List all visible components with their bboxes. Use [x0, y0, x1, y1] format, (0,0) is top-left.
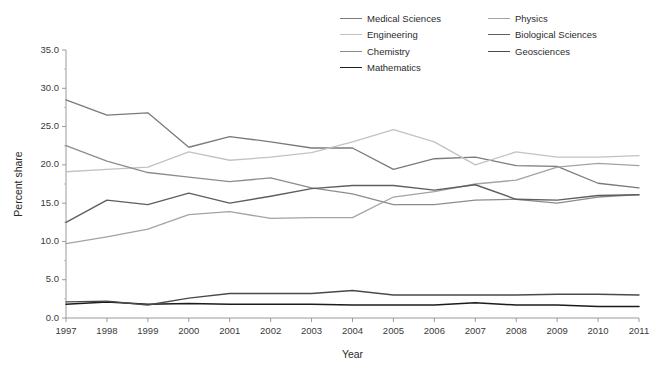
x-tick-label: 2010 [588, 325, 609, 336]
legend-swatch-icon [488, 51, 510, 52]
y-tick-label: 35.0 [41, 44, 60, 55]
legend-swatch-icon [488, 34, 510, 35]
x-tick-label: 2005 [383, 325, 404, 336]
legend-item-engineering[interactable]: Engineering [340, 30, 488, 40]
y-axis-title: Percent share [12, 151, 24, 217]
legend-label: Engineering [367, 30, 418, 40]
x-axis: 1997199819992000200120022003200420052006… [55, 318, 649, 336]
x-tick-label: 2000 [178, 325, 199, 336]
series-line-chemistry [66, 146, 639, 205]
x-tick-label: 2007 [465, 325, 486, 336]
legend-item-medical-sciences[interactable]: Medical Sciences [340, 14, 488, 24]
x-tick-label: 2008 [506, 325, 527, 336]
series-line-biological-sciences [66, 185, 639, 223]
x-tick-label: 2004 [342, 325, 363, 336]
x-tick-label: 1998 [96, 325, 117, 336]
y-tick-label: 0.0 [46, 312, 59, 323]
x-tick-label: 2002 [260, 325, 281, 336]
x-tick-label: 1999 [137, 325, 158, 336]
legend-label: Physics [515, 14, 548, 24]
legend-item-chemistry[interactable]: Chemistry [340, 47, 488, 57]
legend-item-geosciences[interactable]: Geosciences [488, 47, 640, 57]
legend-item-physics[interactable]: Physics [488, 14, 640, 24]
y-tick-label: 20.0 [41, 158, 60, 169]
series-line-engineering [66, 130, 639, 172]
y-tick-label: 5.0 [46, 273, 59, 284]
x-tick-label: 2003 [301, 325, 322, 336]
legend-label: Geosciences [515, 47, 570, 57]
series-line-medical-sciences [66, 100, 639, 188]
legend-swatch-icon [340, 51, 362, 52]
legend-swatch-icon [488, 18, 510, 19]
legend-label: Mathematics [367, 63, 421, 73]
y-axis: 0.05.010.015.020.025.030.035.0 [41, 44, 67, 323]
x-axis-title: Year [342, 348, 364, 360]
legend-item-mathematics[interactable]: Mathematics [340, 63, 488, 73]
series-line-geosciences [66, 290, 639, 305]
legend-swatch-icon [340, 34, 362, 35]
chart-legend: Medical SciencesPhysicsEngineeringBiolog… [340, 10, 640, 76]
legend-swatch-icon [340, 67, 362, 68]
legend-label: Biological Sciences [515, 30, 597, 40]
x-tick-label: 2011 [629, 325, 649, 336]
y-tick-label: 10.0 [41, 235, 60, 246]
legend-swatch-icon [340, 18, 362, 19]
series-lines [66, 100, 639, 307]
y-tick-label: 15.0 [41, 197, 60, 208]
x-tick-label: 2006 [424, 325, 445, 336]
chart-page: 0.05.010.015.020.025.030.035.0 199719981… [0, 0, 658, 371]
legend-item-biological-sciences[interactable]: Biological Sciences [488, 30, 640, 40]
legend-label: Chemistry [367, 47, 410, 57]
x-tick-label: 2001 [219, 325, 240, 336]
y-tick-label: 30.0 [41, 82, 60, 93]
x-tick-label: 2009 [547, 325, 568, 336]
x-tick-label: 1997 [55, 325, 76, 336]
y-tick-label: 25.0 [41, 120, 60, 131]
legend-label: Medical Sciences [367, 14, 441, 24]
